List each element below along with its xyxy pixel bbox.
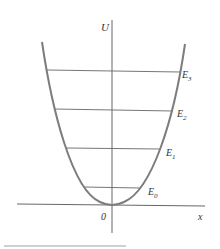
x-axis-label: x: [197, 211, 203, 222]
energy-level-line-2: [54, 109, 173, 111]
energy-label-2: E2: [176, 108, 187, 122]
energy-level-line-1: [66, 148, 160, 149]
y-axis-label: U: [101, 21, 110, 33]
footer-bar: [4, 245, 126, 247]
potential-diagram: U x 0 E3 E2 E1 E0: [0, 0, 220, 249]
energy-label-3: E3: [181, 69, 192, 83]
origin-label: 0: [101, 211, 106, 222]
energy-level-line-0: [84, 187, 140, 188]
energy-level-line-3: [47, 70, 180, 72]
energy-label-1: E1: [165, 147, 176, 161]
potential-curve: [42, 42, 185, 205]
energy-label-0: E0: [147, 186, 158, 200]
